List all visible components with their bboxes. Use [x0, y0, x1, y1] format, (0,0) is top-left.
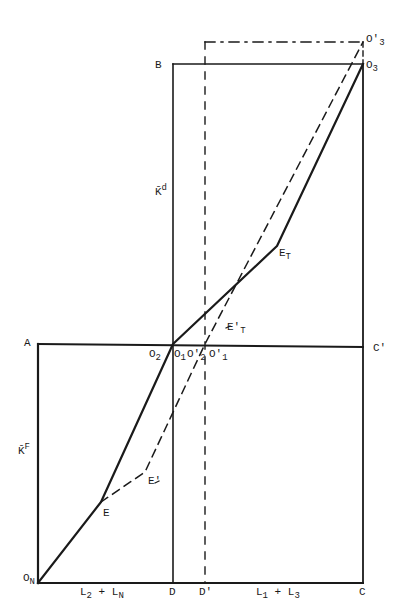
- label-A: A: [24, 338, 31, 349]
- label-E-T-prime: E′T: [227, 322, 246, 336]
- label-bottom-right-axis: L1 + L3: [256, 587, 300, 601]
- solid-path: [38, 64, 363, 583]
- label-K-d: K̄d: [155, 184, 167, 198]
- label-E-T: ET: [279, 248, 291, 262]
- label-O1: O1: [174, 349, 186, 363]
- horizontal-AC-prime: [38, 344, 363, 347]
- label-C-prime: C′: [373, 343, 386, 354]
- label-E: E: [103, 508, 110, 519]
- label-O2-prime: O′2: [187, 349, 206, 363]
- label-D-prime: D′: [199, 587, 212, 598]
- label-B: B: [155, 60, 162, 71]
- label-D: D: [169, 587, 176, 598]
- dashed-path: [101, 42, 363, 502]
- label-O-N: ON: [23, 573, 35, 587]
- label-C: C: [359, 587, 366, 598]
- diagram-canvas: [0, 0, 407, 606]
- label-O1-prime: O′1: [209, 349, 228, 363]
- label-O2: O2: [149, 349, 161, 363]
- label-E-prime: E′: [148, 476, 161, 487]
- label-K-F: K̄F: [18, 443, 30, 457]
- label-O3-prime: O′3: [366, 34, 385, 48]
- label-bottom-left-axis: L2 + LN: [80, 587, 124, 601]
- label-O3: O3: [366, 60, 378, 74]
